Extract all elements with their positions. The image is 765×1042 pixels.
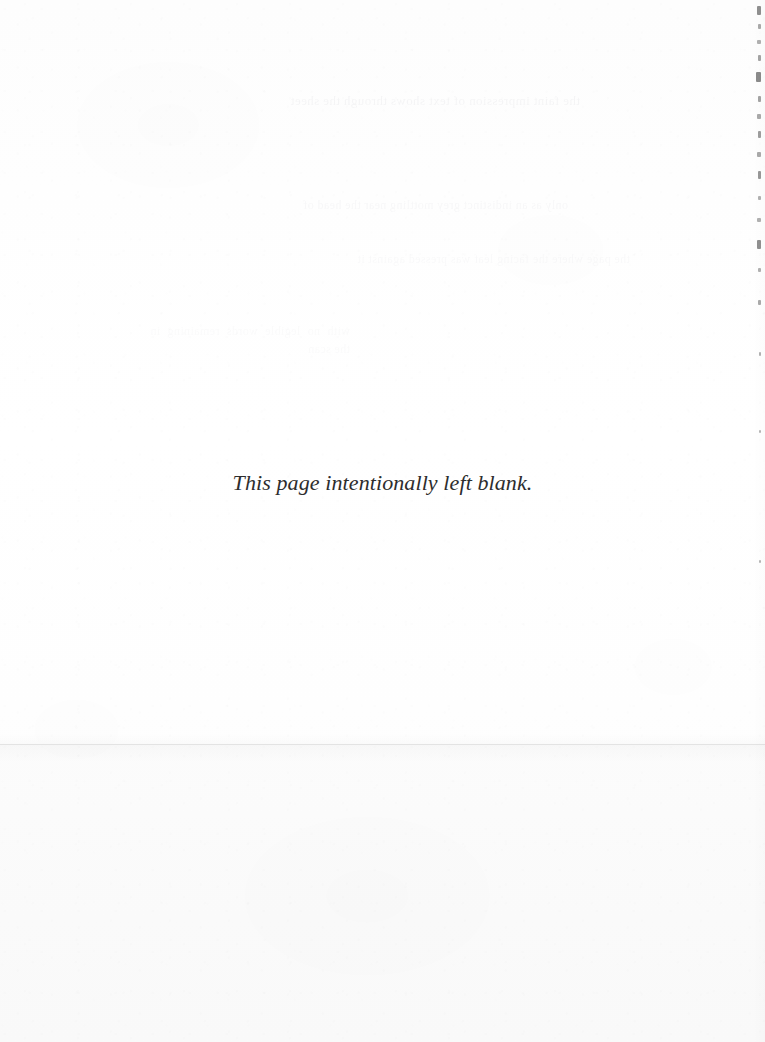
blank-page-notice: This page intentionally left blank. bbox=[0, 469, 765, 497]
page-edge-speck bbox=[758, 24, 761, 29]
page-edge-speck bbox=[759, 430, 761, 433]
page-edge-speck bbox=[758, 171, 761, 179]
page-edge-speck bbox=[758, 196, 761, 200]
lower-page-panel bbox=[0, 745, 765, 1042]
bleed-through-ghost-text: the faint impression of text shows throu… bbox=[188, 92, 580, 184]
page-edge-speck bbox=[759, 560, 761, 563]
scan-seam-line bbox=[0, 744, 765, 745]
page-edge-speck bbox=[758, 131, 761, 138]
seam-shadow-upper bbox=[0, 734, 765, 744]
page-edge-shadow bbox=[753, 0, 765, 1042]
seam-shadow-lower bbox=[0, 745, 765, 763]
page-edge-speck bbox=[758, 268, 761, 272]
page-edge-speck bbox=[757, 218, 761, 222]
page-edge-speck bbox=[758, 96, 761, 102]
paper-background bbox=[0, 0, 765, 1042]
paper-grain-texture bbox=[0, 0, 765, 1042]
page-edge-speck bbox=[757, 152, 761, 157]
bleed-through-ghost-text: the page where the facing leaf was press… bbox=[330, 250, 630, 292]
paper-mottling bbox=[0, 0, 765, 1042]
page-edge-speck bbox=[757, 114, 761, 119]
bleed-through-ghost-text: with no legible words remaining in the s… bbox=[150, 322, 350, 356]
page-edge-speck bbox=[757, 6, 761, 15]
page-edge-speck bbox=[759, 352, 761, 356]
page-edge-speck bbox=[756, 72, 761, 82]
page-edge-speck bbox=[757, 40, 761, 44]
page-edge-speck bbox=[758, 300, 761, 305]
page-edge-speck bbox=[758, 55, 761, 61]
bleed-through-ghost-text: only as an indistinct grey mottling near… bbox=[196, 196, 568, 254]
scanned-page: the faint impression of text shows throu… bbox=[0, 0, 765, 1042]
scan-softening-overlay bbox=[0, 0, 765, 1042]
page-edge-speck bbox=[757, 240, 761, 249]
